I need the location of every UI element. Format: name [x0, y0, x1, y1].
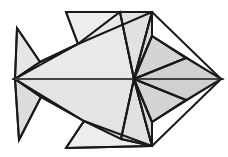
figure-root: [0, 0, 228, 157]
fish-diagram: [0, 0, 228, 157]
